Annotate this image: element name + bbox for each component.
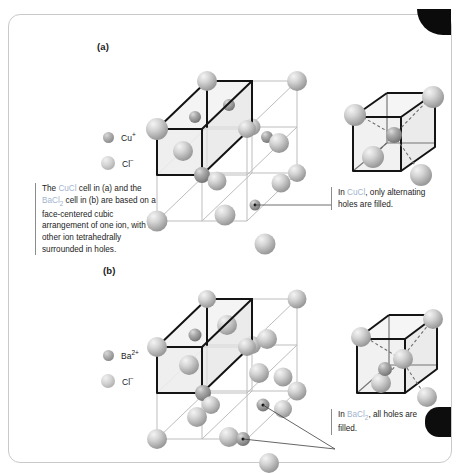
figure-page: (a) (b) Cu+ Cl− Ba2+ Cl− The CuCl cell i… <box>8 14 452 463</box>
legend-item-anion-b: Cl− <box>101 371 139 391</box>
inset-tetrahedral-hole-cucl <box>339 83 451 205</box>
panel-label-b: (b) <box>103 265 116 276</box>
caption-compound-cucl: CuCl <box>58 184 76 193</box>
legend-item-label: Cl− <box>122 375 134 387</box>
cation-interstitial <box>223 99 235 111</box>
legend-item-anion-a: Cl− <box>101 153 136 173</box>
legend-item-label: Cl− <box>122 157 134 169</box>
legend-item-label: Ba2+ <box>121 349 139 361</box>
sphere-cation-icon <box>103 350 114 361</box>
cation-interstitial <box>189 111 201 123</box>
crystal-structure-cucl <box>147 59 317 255</box>
caption-main: The CuCl cell in (a) and the BaCl2 cell … <box>35 183 160 255</box>
sphere-cation-icon <box>103 132 114 143</box>
legend-item-cation-a: Cu+ <box>101 127 136 147</box>
sphere-anion-icon <box>101 156 115 170</box>
inset-tetrahedral-hole-bacl2 <box>341 303 453 419</box>
legend-panel-b: Ba2+ Cl− <box>101 345 139 397</box>
ion-spheres-front <box>147 407 279 473</box>
crystal-structure-bacl2 <box>147 277 323 473</box>
page-corner-tab <box>417 9 451 35</box>
sphere-anion-icon <box>101 374 115 388</box>
cation-interstitial <box>189 329 202 342</box>
panel-label-a: (a) <box>97 41 109 52</box>
legend-item-label: Cu+ <box>121 131 136 143</box>
legend-panel-a: Cu+ Cl− <box>101 127 136 179</box>
legend-item-cation-b: Ba2+ <box>101 345 139 365</box>
inset-cation-sphere <box>378 362 392 376</box>
inset-center-sphere <box>393 349 413 369</box>
inset-cation-sphere <box>386 127 402 143</box>
anion-interstitial <box>217 315 237 335</box>
caption-compound-bacl2: BaCl2 <box>42 196 63 205</box>
